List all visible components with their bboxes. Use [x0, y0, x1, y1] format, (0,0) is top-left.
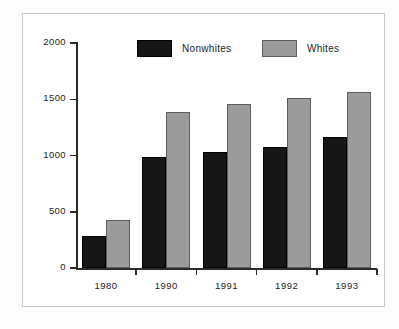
- plot-area: [76, 43, 376, 268]
- bar-nonwhites-1993: [323, 137, 347, 268]
- bar-nonwhites-1992: [263, 147, 287, 269]
- x-axis-end-tick: [376, 269, 378, 275]
- bar-whites-1993: [347, 92, 371, 268]
- y-axis-tick-label: 0: [0, 261, 66, 272]
- x-axis-label-1992: 1992: [275, 280, 298, 291]
- bar-nonwhites-1980: [82, 236, 106, 268]
- x-axis-line: [76, 268, 377, 270]
- x-axis-label-1991: 1991: [215, 280, 238, 291]
- x-axis-group-tick: [256, 269, 258, 275]
- bar-whites-1991: [227, 104, 251, 268]
- y-axis-tick-label: 500: [0, 205, 66, 216]
- x-axis-group-tick: [135, 269, 137, 275]
- x-axis-label-1993: 1993: [335, 280, 358, 291]
- y-axis-tick-label: 1000: [0, 149, 66, 160]
- x-axis-group-tick: [316, 269, 318, 275]
- x-axis-label-1990: 1990: [155, 280, 178, 291]
- x-axis-group-tick: [196, 269, 198, 275]
- bar-nonwhites-1990: [142, 157, 166, 268]
- bar-whites-1990: [166, 112, 190, 268]
- chart-figure: Nonwhites Whites 0500100015002000 198019…: [0, 0, 399, 329]
- bar-nonwhites-1991: [203, 152, 227, 268]
- y-axis-tick-label: 1500: [0, 92, 66, 103]
- y-axis-tick-label: 2000: [0, 36, 66, 47]
- bar-whites-1992: [287, 98, 311, 268]
- bar-whites-1980: [106, 220, 130, 268]
- x-axis-label-1980: 1980: [95, 280, 118, 291]
